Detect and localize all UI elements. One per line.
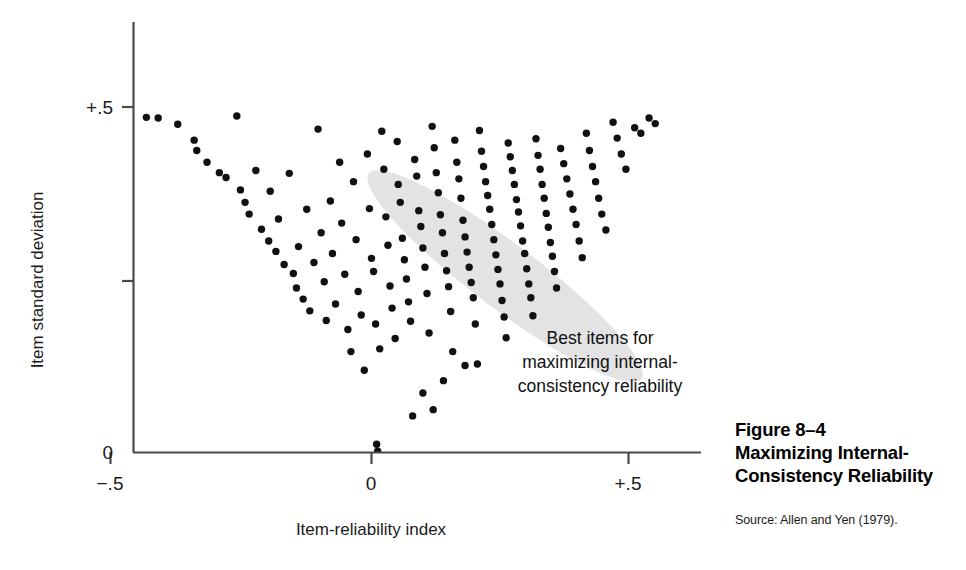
data-point <box>350 178 357 185</box>
data-point <box>265 237 272 244</box>
data-point <box>397 199 404 206</box>
data-point <box>484 192 491 199</box>
data-point <box>341 271 348 278</box>
data-point <box>425 329 432 336</box>
data-point <box>453 159 460 166</box>
data-point <box>306 307 313 314</box>
data-point <box>470 294 477 301</box>
data-point <box>445 283 452 290</box>
data-point <box>407 318 414 325</box>
data-point <box>480 163 487 170</box>
data-point <box>523 265 530 272</box>
data-point <box>252 167 259 174</box>
data-point <box>451 136 458 143</box>
data-point <box>174 121 181 128</box>
data-point <box>525 280 532 287</box>
data-point <box>429 406 436 413</box>
annotation-line-1: Best items for <box>547 328 654 348</box>
data-point <box>154 114 161 121</box>
data-point <box>447 308 454 315</box>
data-point <box>490 236 497 243</box>
data-point <box>193 147 200 154</box>
data-point <box>368 255 375 262</box>
data-point <box>637 130 644 137</box>
data-point <box>652 120 659 127</box>
data-point <box>378 127 385 134</box>
data-point <box>513 196 520 203</box>
data-point <box>415 207 422 214</box>
data-point <box>461 362 468 369</box>
data-point <box>461 233 468 240</box>
data-point <box>401 256 408 263</box>
data-point <box>482 178 489 185</box>
data-point <box>373 441 380 448</box>
data-point <box>403 275 410 282</box>
data-point <box>280 261 287 268</box>
data-point <box>545 224 552 231</box>
data-point <box>613 134 620 141</box>
data-point <box>395 181 402 188</box>
data-point <box>586 147 593 154</box>
data-point <box>380 165 387 172</box>
data-point <box>222 174 229 181</box>
caption-source: Source: Allen and Yen (1979). <box>735 487 960 527</box>
data-point <box>237 186 244 193</box>
data-point <box>421 264 428 271</box>
data-point <box>560 160 567 167</box>
data-point <box>437 211 444 218</box>
data-point <box>435 189 442 196</box>
data-point <box>344 326 351 333</box>
data-point <box>245 210 252 217</box>
data-point <box>290 270 297 277</box>
data-point <box>314 125 321 132</box>
data-point <box>572 221 579 228</box>
data-point <box>496 280 503 287</box>
data-point <box>190 136 197 143</box>
data-point <box>303 206 310 213</box>
y-axis-title: Item standard deviation <box>28 192 47 369</box>
data-point <box>541 195 548 202</box>
data-point <box>431 144 438 151</box>
data-point <box>538 181 545 188</box>
data-point <box>509 167 516 174</box>
data-point <box>327 197 334 204</box>
data-point <box>347 348 354 355</box>
data-point <box>286 170 293 177</box>
data-point <box>547 239 554 246</box>
y-tick-label-zero: 0 <box>102 442 113 463</box>
data-point <box>386 282 393 289</box>
figure-caption: Figure 8–4 Maximizing Internal- Consiste… <box>735 418 960 527</box>
caption-title-line-2: Consistency Reliability <box>735 464 960 487</box>
data-point <box>443 267 450 274</box>
data-point <box>543 210 550 217</box>
data-point <box>441 250 448 257</box>
data-point <box>329 250 336 257</box>
data-point <box>602 226 609 233</box>
data-point <box>203 159 210 166</box>
data-point <box>563 175 570 182</box>
data-point <box>500 313 507 320</box>
data-point <box>354 288 361 295</box>
data-point <box>494 266 501 273</box>
data-point <box>310 259 317 266</box>
data-point <box>569 206 576 213</box>
data-point <box>275 215 282 222</box>
data-point <box>423 290 430 297</box>
data-point <box>216 169 223 176</box>
data-point <box>391 335 398 342</box>
data-point <box>413 172 420 179</box>
data-point <box>492 251 499 258</box>
data-point <box>321 278 328 285</box>
data-point <box>595 195 602 202</box>
data-point <box>336 159 343 166</box>
plot-svg: +.5 0 −.5 0 +.5 Item-reliability index I… <box>0 0 720 570</box>
data-point <box>549 253 556 260</box>
data-point <box>384 242 391 249</box>
data-point <box>476 127 483 134</box>
x-tick-label-neg-half: −.5 <box>97 473 124 494</box>
data-point <box>299 295 306 302</box>
data-point <box>411 156 418 163</box>
data-point <box>515 208 522 215</box>
data-point <box>609 119 616 126</box>
data-point <box>338 219 345 226</box>
